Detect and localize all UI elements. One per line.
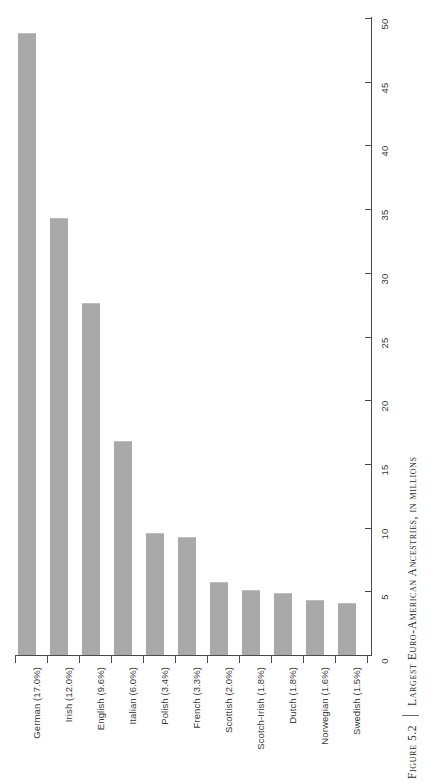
x-axis-label: German (17.0%) — [31, 667, 42, 739]
bar-norwegian — [306, 600, 324, 655]
y-axis-label: 5 — [379, 595, 390, 600]
x-tick — [239, 656, 240, 663]
x-tick — [111, 656, 112, 663]
y-tick — [365, 273, 372, 274]
y-axis-label: 45 — [379, 82, 390, 93]
y-tick — [365, 591, 372, 592]
bar-swedish — [338, 603, 356, 655]
figure-container: German (17.0%)Irish (12.0%)English (9.6%… — [0, 0, 434, 783]
bar-italian — [114, 441, 132, 655]
x-axis-label: Dutch (1.8%) — [287, 667, 298, 724]
bar-english — [82, 303, 100, 655]
y-tick — [365, 464, 372, 465]
bar-polish — [146, 533, 164, 655]
bars-layer — [15, 18, 371, 655]
y-axis-label: 50 — [379, 19, 390, 30]
y-tick — [365, 400, 372, 401]
x-tick — [271, 656, 272, 663]
x-axis-label: Italian (6.0%) — [127, 667, 138, 724]
figure-number: Figure 5.2 — [406, 725, 418, 779]
x-axis-label: French (3.3%) — [191, 667, 202, 729]
x-tick — [79, 656, 80, 663]
x-tick — [367, 656, 368, 663]
y-axis-label: 40 — [379, 146, 390, 157]
x-tick — [335, 656, 336, 663]
y-tick — [365, 209, 372, 210]
x-axis-line — [15, 655, 372, 656]
x-axis-label: English (9.6%) — [95, 667, 106, 730]
x-axis-label: Scotch-Irish (1.8%) — [255, 667, 266, 750]
y-tick — [365, 337, 372, 338]
x-tick — [47, 656, 48, 663]
y-axis-label: 30 — [379, 273, 390, 284]
caption-title: Largest Euro-American Ancestries, in mil… — [406, 456, 418, 705]
x-axis-label: Polish (3.4%) — [159, 667, 170, 725]
bar-dutch — [274, 593, 292, 655]
x-tick — [175, 656, 176, 663]
figure-caption: Figure 5.2 Largest Euro-American Ancestr… — [399, 456, 433, 779]
caption-divider — [402, 715, 419, 716]
x-axis-label: Swedish (1.5%) — [351, 667, 362, 735]
bar-scotch-irish — [242, 590, 260, 655]
x-tick — [303, 656, 304, 663]
x-tick — [207, 656, 208, 663]
x-axis-label: Norwegian (1.6%) — [319, 667, 330, 745]
y-axis-label: 20 — [379, 401, 390, 412]
bar-french — [178, 537, 196, 655]
y-tick — [365, 655, 372, 656]
y-axis-label: 25 — [379, 337, 390, 348]
y-tick — [365, 82, 372, 83]
y-axis-label: 15 — [379, 465, 390, 476]
bar-scottish — [210, 582, 228, 655]
y-axis-label: 10 — [379, 528, 390, 539]
y-tick — [365, 145, 372, 146]
x-axis-label: Irish (12.0%) — [63, 667, 74, 722]
x-axis-label: Scottish (2.0%) — [223, 667, 234, 733]
x-tick — [15, 656, 16, 663]
y-tick — [365, 528, 372, 529]
y-axis-label: 35 — [379, 210, 390, 221]
bar-irish — [50, 218, 68, 655]
plot-area — [15, 0, 371, 656]
x-tick — [143, 656, 144, 663]
bar-german — [18, 33, 36, 655]
y-axis-label: 0 — [379, 658, 390, 663]
y-tick — [365, 18, 372, 19]
